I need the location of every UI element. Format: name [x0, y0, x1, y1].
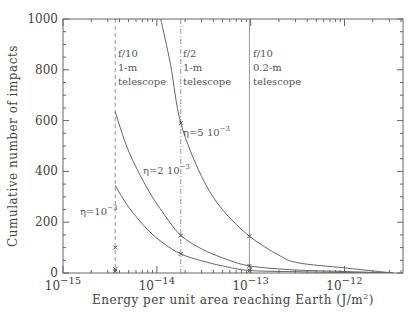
telescope-label-f10-02m: f/10 0.2-m telescope — [253, 48, 301, 87]
telescope-label-f10-1m: f/10 1-m telescope — [118, 48, 166, 87]
svg-text:telescope: telescope — [183, 76, 231, 87]
curve-eta-0.001 — [115, 185, 393, 273]
x-tick-label: 10−12 — [326, 275, 362, 293]
svg-text:f/2: f/2 — [183, 48, 196, 59]
eta-5e-3-label: η=5 10−3 — [183, 125, 230, 138]
eta-2e-3-label: η=2 10−3 — [143, 163, 190, 176]
svg-text:0.2-m: 0.2-m — [253, 62, 282, 73]
svg-text:telescope: telescope — [118, 76, 166, 87]
y-tick-label: 200 — [35, 215, 58, 229]
y-tick-label: 800 — [35, 63, 58, 77]
y-tick-label: 400 — [35, 164, 58, 178]
svg-text:1-m: 1-m — [183, 62, 203, 73]
svg-text:1-m: 1-m — [118, 62, 138, 73]
y-axis-title: Cumulative number of impacts — [6, 45, 20, 247]
svg-text:telescope: telescope — [253, 76, 301, 87]
telescope-label-f2-1m: f/2 1-m telescope — [183, 48, 231, 87]
svg-text:f/10: f/10 — [118, 48, 138, 59]
axes — [63, 19, 403, 273]
impact-energy-chart: 0200400600800100010−1510−1410−1310−12 En… — [0, 0, 419, 322]
x-tick-label: 10−14 — [139, 275, 175, 293]
y-tick-label: 600 — [35, 114, 58, 128]
x-axis-title: Energy per unit area reaching Earth (J/m… — [92, 292, 374, 307]
eta-1e-3-label: η=10−3 — [80, 204, 117, 217]
curve-eta-0.002 — [115, 112, 393, 273]
plot-frame — [63, 19, 403, 273]
svg-text:f/10: f/10 — [253, 48, 273, 59]
tick-marks — [63, 19, 403, 273]
x-tick-label: 10−13 — [232, 275, 268, 293]
y-tick-label: 0 — [50, 266, 58, 280]
y-tick-label: 1000 — [27, 12, 58, 26]
